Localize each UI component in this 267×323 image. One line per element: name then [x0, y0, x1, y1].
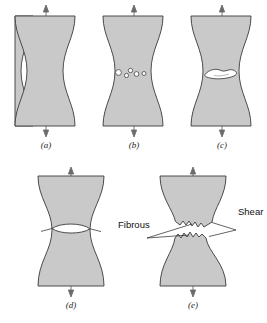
microvoid — [116, 70, 122, 76]
panel-b-caption: (b) — [114, 140, 154, 150]
panel-d — [26, 166, 116, 300]
microvoid — [128, 68, 132, 72]
crack-tip-line-left — [41, 229, 52, 232]
microvoid — [134, 72, 139, 77]
specimen-upper-half-e — [160, 176, 226, 227]
specimen-lower-half-e — [160, 232, 226, 286]
crack-tip-line-right — [90, 229, 101, 232]
shear-leader-lines — [209, 223, 236, 237]
annotation-shear: Shear — [238, 206, 263, 217]
panel-e-caption: (e) — [173, 300, 213, 310]
ductile-fracture-figure: (a) (b) — [0, 0, 267, 323]
panel-e — [148, 166, 238, 300]
panel-d-caption: (d) — [51, 300, 91, 310]
microvoid — [142, 72, 146, 76]
microvoid — [124, 73, 128, 77]
annotation-fibrous: Fibrous — [118, 219, 150, 230]
panel-a-caption: (a) — [26, 140, 66, 150]
panel-b — [92, 4, 176, 138]
panel-c — [180, 4, 264, 138]
panel-a — [4, 4, 88, 138]
lens-crack — [52, 224, 90, 233]
panel-c-caption: (c) — [202, 140, 242, 150]
